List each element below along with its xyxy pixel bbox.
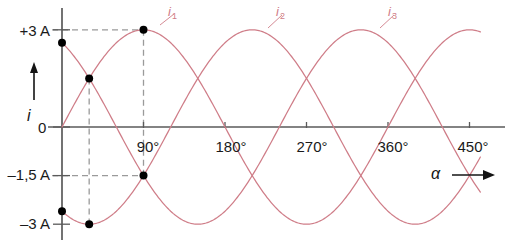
y-tick-label-minus3a: –3 A bbox=[0, 216, 50, 231]
curves-group bbox=[62, 14, 480, 224]
data-point-marker-4 bbox=[85, 220, 93, 228]
y-tick-label-plus3a: +3 A bbox=[0, 23, 50, 38]
series-label-i1-sub: 1 bbox=[172, 11, 177, 21]
data-point-marker-3 bbox=[85, 74, 93, 82]
y-axis-name: i bbox=[27, 108, 31, 124]
x-tick-label-450: 450° bbox=[440, 139, 506, 154]
x-axis-name: α bbox=[431, 166, 440, 182]
data-point-marker-2 bbox=[58, 207, 66, 215]
series-label-i2-base: i bbox=[276, 4, 279, 19]
x-tick-label-180: 180° bbox=[198, 139, 264, 154]
series-label-i1-base: i bbox=[168, 4, 171, 19]
series-label-i1: i1 bbox=[168, 5, 176, 18]
y-tick-label-zero: 0 bbox=[38, 120, 46, 135]
i-axis-arrow-head bbox=[30, 62, 38, 73]
series-label-i2: i2 bbox=[276, 5, 284, 18]
series-label-i3-base: i bbox=[388, 4, 391, 19]
x-tick-label-90: 90° bbox=[118, 139, 178, 154]
data-point-marker-5 bbox=[140, 26, 148, 34]
x-tick-label-270: 270° bbox=[279, 139, 345, 154]
three-phase-current-chart: +3 A 0 –1,5 A –3 A 90° 180° 270° 360° 45… bbox=[0, 0, 516, 248]
axis-arrows-group bbox=[30, 62, 495, 180]
data-point-marker-6 bbox=[140, 172, 148, 180]
chart-plot-area bbox=[0, 0, 516, 248]
series-label-i2-sub: 2 bbox=[280, 11, 285, 21]
y-tick-label-minus1p5a: –1,5 A bbox=[0, 167, 50, 182]
series-label-i3-sub: 3 bbox=[392, 11, 397, 21]
alpha-axis-arrow-head bbox=[483, 170, 495, 180]
x-tick-label-360: 360° bbox=[360, 139, 426, 154]
data-point-marker-1 bbox=[58, 39, 66, 47]
series-label-i3: i3 bbox=[388, 5, 396, 18]
